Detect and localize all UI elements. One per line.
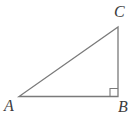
triangle-outline-path xyxy=(19,27,118,97)
triangle-figure: A B C xyxy=(0,0,138,118)
right-angle-marker xyxy=(110,89,118,97)
vertex-label-a: A xyxy=(4,98,14,114)
vertex-label-b: B xyxy=(118,99,128,115)
vertex-label-c: C xyxy=(114,4,125,20)
